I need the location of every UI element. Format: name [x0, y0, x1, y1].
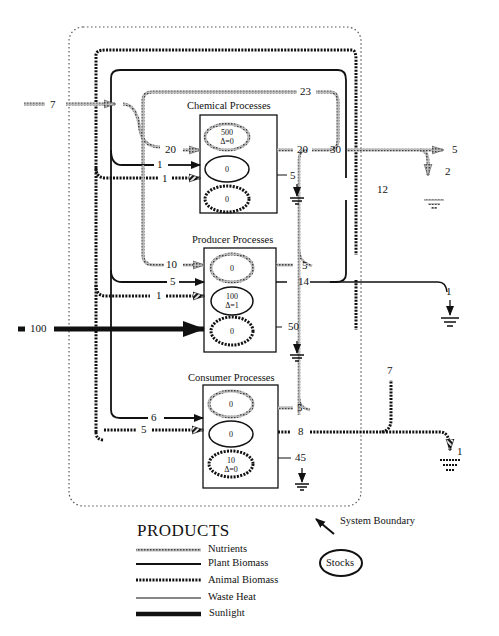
flow-plant-export: 1	[446, 286, 452, 297]
stock-consumer-animal: 10Δ=0	[211, 456, 251, 474]
flow-plant-loop-right: 12	[377, 184, 388, 195]
flow-nutrient-loop-top: 23	[300, 86, 311, 97]
flow-chem-in-animal: 1	[162, 173, 168, 184]
system-boundary-label: System Boundary	[340, 515, 415, 526]
flow-animal-export: 1	[457, 446, 463, 457]
stock-chemical-animal: 0	[207, 195, 247, 204]
legend-title: PRODUCTS	[137, 521, 230, 541]
legend-label-sunlight: Sunlight	[209, 607, 245, 618]
flow-sunlight-in: 100	[30, 323, 47, 334]
producer-process-title: Producer Processes	[192, 234, 273, 245]
flow-cons-out-animal: 8	[298, 426, 304, 437]
flow-chem-out-nutrient: 20	[297, 144, 308, 155]
sink-animal-export	[440, 460, 460, 470]
flow-nutrient-junction: 30	[330, 144, 341, 155]
legend-label-heat: Waste Heat	[208, 591, 256, 602]
heat-sink-chemical	[290, 184, 304, 204]
system-boundary-pointer	[316, 519, 334, 534]
sink-plant-export	[441, 300, 459, 326]
flow-prod-out-nutrient: 5	[302, 260, 308, 271]
flow-chem-in-nutrient: 20	[165, 144, 176, 155]
flow-external-nutrient-in: 7	[50, 99, 56, 110]
legend-label-nutrients: Nutrients	[208, 543, 247, 554]
flow-chem-in-plant: 1	[157, 159, 163, 170]
flow-prod-out-plant: 14	[298, 276, 309, 287]
chemical-process-title: Chemical Processes	[187, 100, 271, 111]
flow-cons-in-animal: 5	[141, 424, 147, 435]
stock-consumer-plant: 0	[211, 430, 251, 439]
stock-consumer-nutrients: 0	[211, 400, 251, 409]
consumer-process-title: Consumer Processes	[188, 372, 275, 383]
flow-cons-in-plant: 6	[151, 412, 157, 423]
legend-label-plant: Plant Biomass	[208, 557, 268, 568]
stock-chemical-nutrients: 500Δ=0	[207, 128, 247, 146]
legend-label-animal: Animal Biomass	[208, 574, 278, 585]
flow-nutrient-loss: 2	[445, 166, 451, 177]
stock-producer-animal: 0	[212, 327, 252, 336]
flow-prod-in-plant: 5	[170, 276, 176, 287]
sink-nutrient-loss	[424, 200, 444, 208]
flow-nutrient-export: 5	[452, 144, 458, 155]
flow-cons-out-nutrient: 5	[297, 402, 303, 413]
stock-producer-nutrients: 0	[212, 264, 252, 273]
flow-prod-in-nutrient: 10	[166, 259, 177, 270]
flow-diagram-canvas	[0, 0, 499, 636]
flow-chem-heat: 5	[290, 170, 296, 181]
stock-producer-plant: 100Δ=1	[212, 292, 252, 310]
stock-chemical-plant: 0	[207, 165, 247, 174]
heat-sink-consumer	[295, 468, 309, 490]
legend-label-stocks: Stocks	[326, 557, 354, 568]
flow-animal-loop-right: 7	[387, 365, 393, 376]
flow-cons-heat: 45	[295, 452, 306, 463]
heat-sink-producer	[290, 341, 304, 361]
flow-prod-heat: 50	[288, 321, 299, 332]
flow-prod-in-animal: 1	[156, 290, 162, 301]
